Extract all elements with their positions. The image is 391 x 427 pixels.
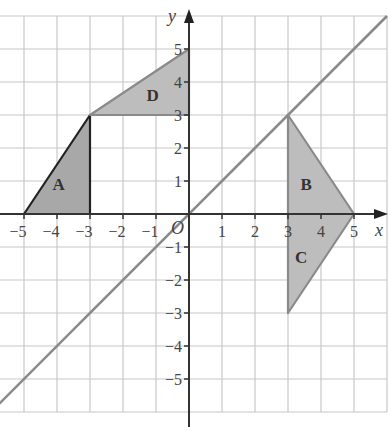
- x-tick-label: −3: [75, 223, 92, 240]
- plot-svg: −5−4−3−2−112345−5−4−3−2−112345xyOADBC: [0, 0, 391, 427]
- x-axis-arrow-icon: [374, 209, 388, 219]
- x-tick-label: −2: [108, 223, 125, 240]
- x-tick-label: 5: [350, 223, 358, 240]
- y-tick-label: −3: [165, 305, 182, 322]
- shape-label-a: A: [53, 175, 66, 194]
- x-tick-label: 2: [251, 223, 259, 240]
- x-tick-label: −1: [141, 223, 158, 240]
- y-tick-label: −5: [165, 371, 182, 388]
- shape-label-b: B: [300, 175, 311, 194]
- y-tick-label: 1: [174, 173, 182, 190]
- y-tick-label: 5: [174, 41, 182, 58]
- x-tick-label: 4: [317, 223, 325, 240]
- x-tick-label: −5: [9, 223, 26, 240]
- shape-label-c: C: [295, 248, 307, 267]
- x-axis-label: x: [374, 220, 383, 240]
- x-tick-label: 3: [284, 223, 292, 240]
- y-tick-label: 4: [174, 74, 182, 91]
- shape-label-d: D: [147, 86, 159, 105]
- origin-label: O: [171, 218, 184, 238]
- y-axis-label: y: [166, 6, 176, 26]
- y-tick-label: −2: [165, 272, 182, 289]
- coordinate-diagram: −5−4−3−2−112345−5−4−3−2−112345xyOADBC: [0, 0, 391, 427]
- x-tick-label: −4: [42, 223, 59, 240]
- y-tick-label: −4: [165, 338, 182, 355]
- y-tick-label: 2: [174, 140, 182, 157]
- y-tick-label: 3: [174, 107, 182, 124]
- y-tick-label: −1: [165, 239, 182, 256]
- x-tick-label: 1: [218, 223, 226, 240]
